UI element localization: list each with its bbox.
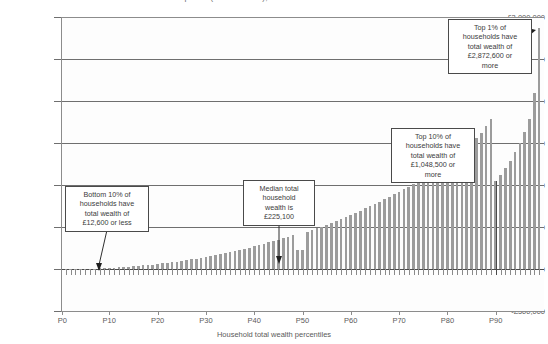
arrowhead-bottom-10 — [96, 263, 102, 271]
callout-top-10-line5: more — [396, 170, 470, 179]
callout-top-1-line1: Top 1% of — [453, 23, 527, 32]
callout-top-1-line4: £2,872,600 or — [453, 51, 527, 60]
callout-top-1-line5: more — [453, 61, 527, 70]
callout-top-1: Top 1% of households have total wealth o… — [448, 19, 532, 74]
callout-median: Median total household wealth is £225,10… — [243, 180, 315, 226]
callout-top-10: Top 10% of households have total wealth … — [391, 128, 475, 183]
callout-top-1-line3: total wealth of — [453, 42, 527, 51]
callout-bottom-10-line1: Bottom 10% of — [70, 190, 144, 199]
callout-bottom-10-line4: £12,600 or less — [70, 218, 144, 227]
callout-top-10-line3: total wealth of — [396, 151, 470, 160]
callout-top-10-line1: Top 10% of — [396, 132, 470, 141]
callout-median-line4: £225,100 — [248, 212, 310, 221]
callout-median-line2: household — [248, 193, 310, 202]
callout-top-10-line2: households have — [396, 141, 470, 150]
callout-median-line1: Median total — [248, 184, 310, 193]
arrowhead-median — [276, 256, 282, 264]
callout-bottom-10-line3: total wealth of — [70, 209, 144, 218]
callout-bottom-10-line2: households have — [70, 199, 144, 208]
callout-bottom-10: Bottom 10% of households have total weal… — [65, 186, 149, 232]
callout-top-10-line4: £1,048,500 or — [396, 160, 470, 169]
leader-bottom-10 — [99, 230, 107, 265]
callout-top-1-line2: households have — [453, 32, 527, 41]
callout-median-line3: wealth is — [248, 203, 310, 212]
chart-root: points (Great Britain), June 2022 to Jun… — [0, 0, 548, 344]
